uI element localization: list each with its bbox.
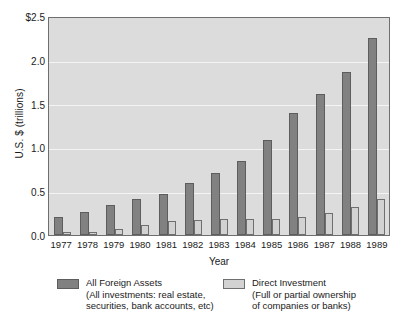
bar	[377, 199, 385, 235]
bar	[298, 217, 306, 235]
x-tick-label: 1986	[285, 239, 311, 250]
x-tick-label: 1988	[337, 239, 363, 250]
legend-label: Direct Investment	[252, 277, 356, 289]
legend-item-all-foreign-assets: All Foreign Assets (All investments: rea…	[57, 277, 207, 312]
x-tick-label: 1984	[232, 239, 258, 250]
bar-group	[337, 18, 363, 235]
chart-legend: All Foreign Assets (All investments: rea…	[0, 277, 406, 312]
bar	[342, 72, 351, 235]
y-tick-label: 1.0	[1, 143, 45, 154]
bar-group	[284, 18, 310, 235]
x-tick-label: 1987	[311, 239, 337, 250]
bar	[368, 38, 377, 235]
bar-group	[258, 18, 284, 235]
bar	[351, 207, 359, 235]
bar	[246, 219, 254, 235]
y-tick-label: $2.5	[1, 12, 45, 23]
bar	[237, 161, 246, 235]
x-tick-label: 1978	[74, 239, 100, 250]
bar	[132, 199, 141, 235]
x-tick-label: 1979	[101, 239, 127, 250]
bar-group	[154, 18, 180, 235]
bar	[54, 217, 63, 235]
bar-group	[206, 18, 232, 235]
legend-sub-line: of companies or banks)	[252, 300, 356, 312]
y-tick-label: 0.0	[1, 231, 45, 242]
bar	[168, 221, 176, 235]
legend-swatch-direct-investment	[223, 279, 245, 289]
bar	[63, 232, 71, 235]
bar	[194, 220, 202, 235]
bar	[106, 205, 115, 235]
bar	[80, 212, 89, 235]
bar	[272, 219, 280, 235]
x-tick-label: 1983	[206, 239, 232, 250]
bar	[263, 140, 272, 235]
bar	[316, 94, 325, 235]
bar-group	[363, 18, 389, 235]
bar-chart: U.S. $ (trillions) $2.5 2.0 1.5 1.0 0.5 …	[0, 0, 406, 326]
y-tick-label: 2.0	[1, 55, 45, 66]
legend-sub-line: (All investments: real estate,	[86, 289, 214, 301]
bar	[141, 225, 149, 235]
bar-group	[180, 18, 206, 235]
x-tick-label: 1989	[364, 239, 390, 250]
bar	[159, 194, 168, 235]
legend-label: All Foreign Assets	[86, 277, 214, 289]
y-tick-label: 1.5	[1, 99, 45, 110]
x-tick-label: 1977	[48, 239, 74, 250]
x-axis-tick-labels: 1977197819791980198119821983198419851986…	[48, 239, 390, 250]
x-tick-label: 1981	[153, 239, 179, 250]
x-tick-label: 1985	[259, 239, 285, 250]
legend-sub-line: securities, bank accounts, etc)	[86, 300, 214, 312]
bar-group	[75, 18, 101, 235]
bar	[220, 219, 228, 235]
bar-group	[127, 18, 153, 235]
bar	[289, 113, 298, 235]
bar	[89, 232, 97, 235]
x-axis-title: Year	[48, 256, 390, 267]
bar	[115, 229, 123, 235]
legend-item-direct-investment: Direct Investment (Full or partial owner…	[223, 277, 356, 312]
bar-group	[101, 18, 127, 235]
bar	[325, 213, 333, 235]
legend-sub-line: (Full or partial ownership	[252, 289, 356, 301]
y-tick-label: 0.5	[1, 187, 45, 198]
bar	[185, 183, 194, 235]
bar	[211, 173, 220, 235]
y-axis-tick-labels: $2.5 2.0 1.5 1.0 0.5 0.0	[0, 0, 45, 253]
bar-group	[49, 18, 75, 235]
x-tick-label: 1980	[127, 239, 153, 250]
bar-group	[311, 18, 337, 235]
x-tick-label: 1982	[180, 239, 206, 250]
bar-series-container	[49, 18, 389, 235]
bar-group	[232, 18, 258, 235]
plot-area	[48, 17, 390, 236]
legend-swatch-all-foreign-assets	[57, 279, 79, 289]
